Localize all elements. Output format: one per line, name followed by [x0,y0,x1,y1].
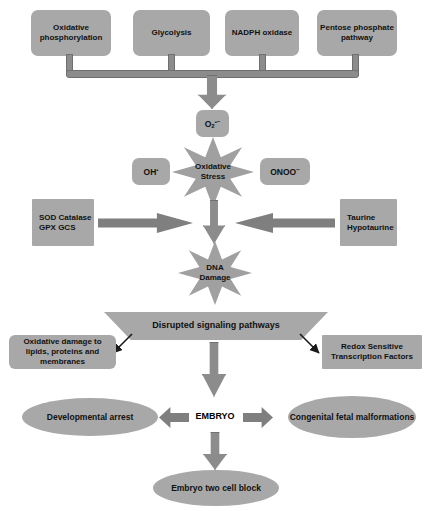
node-oxidative-stress: Oxidative Stress [172,137,254,207]
node-label: SOD Catalase GPX GCS [39,213,94,233]
arrow-embryo-to-two-cell-block [203,432,227,470]
node-label: EMBRYO [195,411,234,422]
node-label: DNA Damage [199,263,230,283]
node-hydroxyl-radical: OH• [132,158,170,185]
pathway-diagram: Oxidative phosphorylation Glycolysis NAD… [0,0,428,511]
node-label: Oxidative phosphorylation [34,23,108,43]
node-glycolysis: Glycolysis [133,10,210,56]
node-superoxide: O2•− [196,110,229,137]
arrow-taurine-to-stress [235,213,335,233]
node-oxidative-phosphorylation: Oxidative phosphorylation [31,10,111,56]
node-label: Glycolysis [151,28,191,38]
node-label: Embryo two cell block [171,483,261,494]
arrow-banner-to-embryo [202,342,226,397]
node-label: Pentose phosphate pathway [320,23,394,43]
arrow-manifold-to-superoxide [198,75,226,109]
arrow-stress-to-dna-damage [203,200,225,244]
node-label: Oxidative Stress [195,162,231,182]
arrow-embryo-to-congenital-malformations [243,407,273,428]
node-label: Taurine Hypotaurine [347,213,397,233]
node-nadph-oxidase: NADPH oxidase [225,10,299,56]
node-developmental-arrest: Developmental arrest [22,398,158,436]
node-disrupted-signaling-pathways: Disrupted signaling pathways [104,312,328,340]
node-label: ONOO− [270,166,300,177]
node-label: Disrupted signaling pathways [152,320,280,331]
node-label: Congenital fetal malformations [290,412,415,423]
arrow-antioxidants-to-stress [98,213,193,233]
node-embryo-two-cell-block: Embryo two cell block [153,470,279,506]
node-redox-sensitive-transcription-factors: Redox Sensitive Transcription Factors [322,335,422,369]
node-peroxynitrite: ONOO− [260,158,310,185]
node-congenital-fetal-malformations: Congenital fetal malformations [288,396,416,438]
node-label: Redox Sensitive Transcription Factors [322,342,422,362]
arrow-embryo-to-developmental-arrest [159,407,189,428]
node-pentose-phosphate-pathway: Pentose phosphate pathway [317,10,397,56]
node-label: Developmental arrest [47,412,133,423]
node-enzymatic-antioxidants: SOD Catalase GPX GCS [32,199,94,246]
node-label: NADPH oxidase [232,28,292,38]
node-label: O2•− [205,118,221,130]
node-taurine-hypotaurine: Taurine Hypotaurine [340,199,397,246]
node-label: Oxidative damage to lipids, proteins and… [12,337,113,367]
node-dna-damage: DNA Damage [178,241,252,305]
node-label: OH• [144,166,159,177]
node-embryo: EMBRYO [186,408,244,426]
node-oxidative-damage: Oxidative damage to lipids, proteins and… [9,335,116,369]
